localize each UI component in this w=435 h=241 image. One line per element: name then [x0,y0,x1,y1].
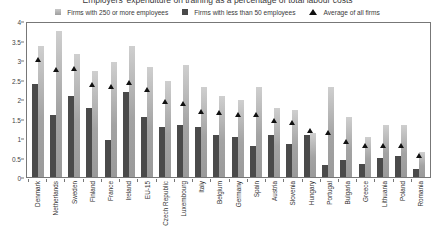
bar-groups [27,23,430,177]
x-axis-tick-mark [393,179,394,182]
y-axis-tick-mark [21,119,24,120]
x-axis-label-cell: Italy [192,179,210,241]
marker-average [271,118,277,123]
x-axis-tick-mark [64,179,65,182]
bar-large-firms [401,125,407,177]
marker-average [416,153,422,158]
bar-large-firms [219,96,225,177]
bar-large-firms [92,71,98,177]
bar-group [174,23,192,177]
legend-label-small-firms: Firms with less than 50 employees [194,9,295,16]
x-axis-tick-label: Romania [417,181,424,207]
bar-group [156,23,174,177]
x-axis-tick-label: Germany [234,181,241,207]
bar-large-firms [129,46,135,177]
x-axis-tick-label: Czech Republic [161,181,168,226]
bar-group [301,23,319,177]
x-axis-tick-mark [302,179,303,182]
x-axis-label-cell: Finland [83,179,101,241]
x-axis-tick-mark [28,179,29,182]
x-axis-tick-mark [229,179,230,182]
x-axis-tick-label: EU-15 [143,181,150,199]
bar-large-firms [256,87,262,177]
x-axis-label-cell: Hungary [302,179,320,241]
bar-group [356,23,374,177]
bar-large-firms [111,62,117,178]
marker-average [35,57,41,62]
bar-group [102,23,120,177]
x-axis-tick-label: Belgium [216,181,223,204]
marker-average [162,99,168,104]
legend-item-average: Average of all firms [309,9,379,16]
x-axis-tick-label: Ireland [125,181,132,201]
bar-large-firms [147,67,153,177]
bar-group [138,23,156,177]
marker-average [307,128,313,133]
marker-average [343,139,349,144]
plot-inner [27,23,430,177]
x-axis-tick-mark [137,179,138,182]
bar-group [65,23,83,177]
marker-average [362,143,368,148]
square-dark-icon [182,9,188,15]
y-axis-tick-mark [21,158,24,159]
bar-large-firms [201,87,207,177]
marker-average [216,110,222,115]
legend-item-large-firms: Firms with 250 or more employees [55,9,168,16]
x-axis-tick-mark [320,179,321,182]
x-axis-tick-mark [101,179,102,182]
x-axis-label-cell: Romania [411,179,429,241]
x-axis-tick-label: Finland [88,181,95,202]
y-axis-tick-mark [21,100,24,101]
y-axis-tick-mark [21,139,24,140]
bar-group [210,23,228,177]
x-axis-tick-label: Lithuania [380,181,387,207]
marker-average [53,67,59,72]
x-axis-tick-label: Sweden [70,181,77,204]
y-axis-tick-mark [21,80,24,81]
x-axis-label-cell: Czech Republic [156,179,174,241]
x-axis-label-cell: Bulgaria [338,179,356,241]
bar-large-firms [346,117,352,177]
x-axis-tick-label: Poland [398,181,405,201]
x-axis-tick-label: France [107,181,114,201]
x-axis-tick-label: Slovenia [289,181,296,206]
bar-large-firms [183,65,189,177]
x-axis-tick-label: Hungary [307,181,314,205]
marker-average [144,87,150,92]
x-axis-label-cell: Spain [247,179,265,241]
y-axis-tick-label: 2.5 [12,77,21,84]
marker-average [325,130,331,135]
y-axis-tick-mark [21,41,24,42]
x-axis-label-cell: Luxembourg [174,179,192,241]
x-axis-tick-label: Italy [198,181,205,193]
x-axis-label-cell: EU-15 [137,179,155,241]
legend-label-average: Average of all firms [323,9,379,16]
bar-large-firms [56,31,62,177]
x-axis-tick-mark [411,179,412,182]
y-axis-tick-mark [21,22,24,23]
bar-large-firms [38,46,44,177]
bar-large-firms [74,54,80,177]
x-axis-label-cell: Netherlands [46,179,64,241]
triangle-icon [309,9,317,15]
marker-average [108,84,114,89]
legend-item-small-firms: Firms with less than 50 employees [182,9,295,16]
chart-title: Employers' expenditure on training as a … [0,0,435,5]
x-axis-tick-mark [83,179,84,182]
x-axis-tick-label: Luxembourg [179,181,186,217]
x-axis-tick-label: Portugal [325,181,332,205]
x-axis-tick-mark [119,179,120,182]
bar-group [192,23,210,177]
bar-group [265,23,283,177]
x-axis-tick-mark [374,179,375,182]
bar-large-firms [310,133,316,177]
x-axis-label-cell: Portugal [320,179,338,241]
legend-label-large-firms: Firms with 250 or more employees [67,9,168,16]
bar-group [337,23,355,177]
bar-group [392,23,410,177]
bar-group [229,23,247,177]
x-axis-tick-mark [265,179,266,182]
x-axis-label-cell: Ireland [119,179,137,241]
bar-group [83,23,101,177]
